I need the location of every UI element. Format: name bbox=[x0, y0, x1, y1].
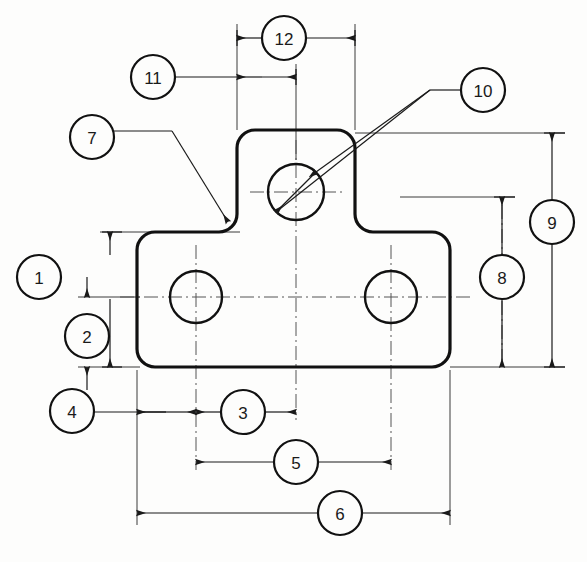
balloon-2[interactable]: 2 bbox=[65, 314, 109, 358]
balloon-9-label: 9 bbox=[547, 214, 556, 233]
balloon-12-label: 12 bbox=[275, 30, 294, 49]
balloon-1[interactable]: 1 bbox=[17, 255, 61, 299]
balloon-8-label: 8 bbox=[497, 269, 506, 288]
balloon-11[interactable]: 11 bbox=[131, 55, 175, 99]
balloon-9[interactable]: 9 bbox=[530, 200, 574, 244]
engineering-drawing-canvas: 12 11 10 7 9 8 bbox=[0, 0, 587, 562]
balloon-3[interactable]: 3 bbox=[221, 390, 265, 434]
balloon-6-label: 6 bbox=[335, 505, 344, 524]
centerlines bbox=[120, 140, 502, 470]
balloon-3-label: 3 bbox=[238, 404, 247, 423]
leader-10-diagonal bbox=[276, 90, 430, 212]
balloon-8[interactable]: 8 bbox=[480, 255, 524, 299]
bracket-profile bbox=[137, 130, 450, 367]
balloon-12[interactable]: 12 bbox=[262, 16, 306, 60]
balloon-1-label: 1 bbox=[34, 269, 43, 288]
balloon-7[interactable]: 7 bbox=[70, 115, 114, 159]
balloon-4[interactable]: 4 bbox=[50, 389, 94, 433]
part-outline bbox=[137, 130, 450, 367]
balloon-7-label: 7 bbox=[87, 129, 96, 148]
balloon-10[interactable]: 10 bbox=[461, 68, 505, 112]
balloon-5-label: 5 bbox=[291, 454, 300, 473]
balloon-10-label: 10 bbox=[474, 82, 493, 101]
balloon-4-label: 4 bbox=[67, 403, 76, 422]
balloon-2-label: 2 bbox=[82, 328, 91, 347]
balloon-11-label: 11 bbox=[144, 69, 162, 88]
balloon-5[interactable]: 5 bbox=[274, 440, 318, 484]
drawing-svg: 12 11 10 7 9 8 bbox=[0, 0, 587, 562]
leader-7-diagonal bbox=[172, 131, 228, 222]
balloon-6[interactable]: 6 bbox=[318, 491, 362, 535]
